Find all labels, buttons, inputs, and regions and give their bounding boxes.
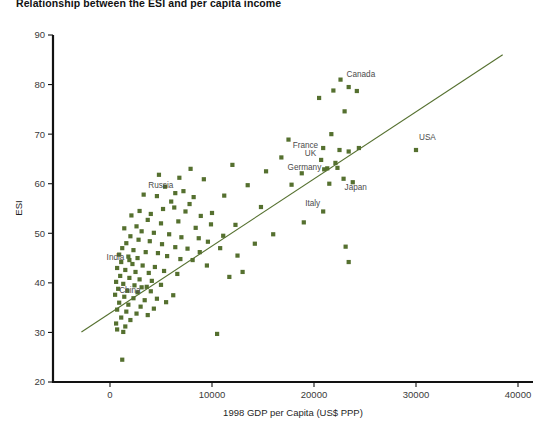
point-label-india: India [107, 253, 125, 262]
data-point [347, 260, 351, 264]
data-point [124, 310, 128, 314]
data-point [338, 78, 342, 82]
data-point [177, 176, 181, 180]
data-point [205, 263, 209, 267]
point-label-germany: Germany [288, 163, 323, 172]
data-point [343, 109, 347, 113]
data-point [131, 248, 135, 252]
data-point [165, 254, 169, 258]
data-point [185, 247, 189, 251]
point-labels-layer: CanadaFranceUKGermanyJapanUSAItalyRussia… [107, 70, 437, 296]
data-point [197, 236, 201, 240]
data-point [147, 271, 151, 275]
data-point [155, 194, 159, 198]
data-point [172, 205, 176, 209]
data-point [139, 305, 143, 309]
data-point [302, 220, 306, 224]
data-point [162, 269, 166, 273]
x-tick-label: 20000 [301, 389, 327, 400]
data-point [152, 231, 156, 235]
data-point [129, 213, 133, 217]
data-point [347, 85, 351, 89]
point-label-china: China [119, 286, 141, 295]
data-point [183, 209, 187, 213]
data-point [123, 268, 127, 272]
data-point [233, 223, 237, 227]
plot-points-layer [113, 78, 418, 362]
data-point [137, 277, 141, 281]
y-axis: 2030405060708090 [34, 29, 53, 387]
y-tick-label: 50 [34, 228, 45, 239]
data-point [153, 265, 157, 269]
data-point [146, 218, 150, 222]
data-point [175, 272, 179, 276]
x-axis-title: 1998 GDP per Capita (US$ PPP) [223, 407, 363, 418]
data-point [114, 321, 118, 325]
y-tick-label: 90 [34, 29, 45, 40]
data-point [202, 177, 206, 181]
data-point [115, 327, 119, 331]
data-point [124, 241, 128, 245]
data-point [119, 315, 123, 319]
data-point [160, 242, 164, 246]
point-label-russia: Russia [148, 181, 173, 190]
data-point [173, 245, 177, 249]
data-point [161, 207, 165, 211]
point-label-canada: Canada [347, 70, 376, 79]
data-point [157, 173, 161, 177]
data-point [134, 224, 138, 228]
data-point [149, 212, 153, 216]
data-point [188, 167, 192, 171]
chart-container: Relationship between the ESI and per cap… [0, 0, 553, 439]
data-point [155, 297, 159, 301]
point-label-italy: Italy [305, 199, 321, 208]
data-point [235, 253, 239, 257]
data-point [194, 226, 198, 230]
scatter-plot: CanadaFranceUKGermanyJapanUSAItalyRussia… [0, 0, 553, 439]
data-point [319, 158, 323, 162]
y-axis-title: ESI [13, 200, 24, 215]
data-point [128, 318, 132, 322]
data-point [178, 257, 182, 261]
data-point [120, 246, 124, 250]
data-point [159, 283, 163, 287]
data-point [347, 149, 351, 153]
data-point [335, 166, 339, 170]
data-point [121, 282, 125, 286]
data-point [317, 96, 321, 100]
data-point [331, 88, 335, 92]
data-point [321, 146, 325, 150]
data-point [227, 275, 231, 279]
data-point [209, 222, 213, 226]
data-point [114, 280, 118, 284]
data-point [117, 301, 121, 305]
x-tick-label: 0 [107, 389, 112, 400]
data-point [210, 211, 214, 215]
data-point [187, 202, 191, 206]
data-point [321, 209, 325, 213]
x-axis: 010000200003000040000 [52, 382, 533, 400]
data-point [167, 232, 171, 236]
data-point [123, 324, 127, 328]
data-point [134, 311, 138, 315]
data-point [206, 240, 210, 244]
data-point [146, 313, 150, 317]
y-tick-label: 30 [34, 327, 45, 338]
data-point [169, 199, 173, 203]
data-point [199, 214, 203, 218]
data-point [148, 239, 152, 243]
data-point [222, 194, 226, 198]
data-point [171, 293, 175, 297]
data-point [286, 137, 290, 141]
y-tick-label: 80 [34, 79, 45, 90]
data-point [122, 226, 126, 230]
data-point [120, 358, 124, 362]
data-point [113, 293, 117, 297]
data-point [159, 221, 163, 225]
data-point [264, 169, 268, 173]
data-point [355, 89, 359, 93]
data-point [246, 183, 250, 187]
data-point [143, 298, 147, 302]
data-point [230, 163, 234, 167]
data-point [279, 155, 283, 159]
